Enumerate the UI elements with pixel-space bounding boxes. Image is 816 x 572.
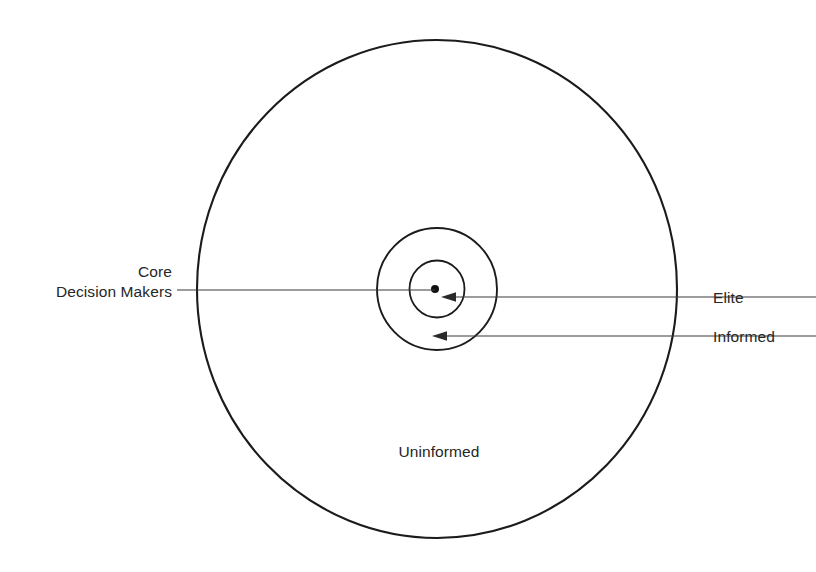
elite-arrow-head-icon [441,292,456,302]
label-core-line1: Core [138,263,172,280]
diagram-canvas: Core Decision Makers Elite Informed Unin… [0,0,816,572]
informed-arrow-head-icon [432,331,447,341]
label-core-line2: Decision Makers [56,283,172,300]
core-decision-makers-dot [431,285,439,293]
label-elite: Elite [713,289,744,306]
concentric-circles-diagram: Core Decision Makers Elite Informed Unin… [0,0,816,572]
label-uninformed: Uninformed [398,443,479,460]
label-informed: Informed [713,328,775,345]
